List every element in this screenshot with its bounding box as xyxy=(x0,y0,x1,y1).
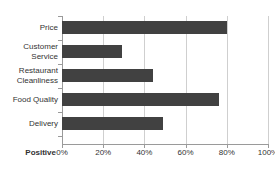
bar-row xyxy=(62,88,268,112)
bar-row xyxy=(62,16,268,40)
y-axis-label-restaurant-cleanliness: RestaurantCleanliness xyxy=(0,66,58,85)
x-axis-tick-label: 60% xyxy=(178,148,194,157)
x-axis-title: Positive xyxy=(8,148,56,157)
y-axis-label-price: Price xyxy=(0,23,58,33)
y-axis-label-customer-service: CustomerService xyxy=(0,42,58,61)
plot-area xyxy=(62,16,268,144)
y-axis-label-line: Cleanliness xyxy=(0,76,58,86)
y-axis-label-line: Customer xyxy=(0,42,58,52)
y-axis-tick xyxy=(58,16,62,17)
y-axis-tick xyxy=(58,64,62,65)
bar-chart: PriceCustomerServiceRestaurantCleanlines… xyxy=(0,0,275,170)
y-axis-label-line: Restaurant xyxy=(0,66,58,76)
bar-customer-service xyxy=(62,45,122,58)
y-axis-category-labels: PriceCustomerServiceRestaurantCleanlines… xyxy=(0,16,58,144)
y-axis-label-line: Delivery xyxy=(0,119,58,129)
chart-title xyxy=(0,0,275,3)
x-axis-tick-label: 0% xyxy=(56,148,68,157)
x-axis-tick-label: 20% xyxy=(95,148,111,157)
x-axis-tick-label: 100% xyxy=(258,148,275,157)
y-axis-label-line: Service xyxy=(0,52,58,62)
y-axis-tick xyxy=(58,40,62,41)
y-axis-label-line: Price xyxy=(0,23,58,33)
y-axis-label-food-quality: Food Quality xyxy=(0,95,58,105)
bar-row xyxy=(62,64,268,88)
bar-price xyxy=(62,21,227,34)
y-axis-tick xyxy=(58,112,62,113)
x-axis-tick-label: 80% xyxy=(219,148,235,157)
bar-row xyxy=(62,112,268,136)
y-axis-tick xyxy=(58,88,62,89)
bar-delivery xyxy=(62,117,163,130)
gridline-100 xyxy=(268,16,269,144)
bar-food-quality xyxy=(62,93,219,106)
x-axis-tick-label: 40% xyxy=(136,148,152,157)
bar-row xyxy=(62,40,268,64)
x-axis-line xyxy=(62,144,269,145)
y-axis-tick xyxy=(58,136,62,137)
bar-restaurant-cleanliness xyxy=(62,69,153,82)
y-axis-label-delivery: Delivery xyxy=(0,119,58,129)
y-axis-label-line: Food Quality xyxy=(0,95,58,105)
x-axis-tick-labels: Positive 0%20%40%60%80%100% xyxy=(0,148,275,160)
